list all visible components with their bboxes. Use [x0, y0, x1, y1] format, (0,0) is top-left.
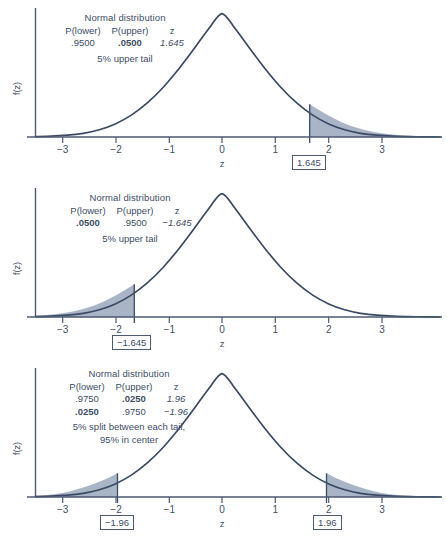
tick-label: 3 — [370, 144, 394, 155]
annotation-note: 5% upper tail — [40, 233, 220, 246]
tick-label: 3 — [370, 324, 394, 335]
header-p-lower: P(lower) — [60, 25, 106, 38]
y-axis-label: f(z) — [12, 262, 22, 275]
header-p-lower: P(lower) — [64, 381, 110, 394]
value-p-lower: .9500 — [60, 37, 106, 50]
annotation-note: 5% upper tail — [40, 53, 210, 66]
value-z-italic: 1.645 — [160, 37, 184, 48]
shaded-tail-upper — [310, 104, 438, 137]
normal-distribution-panel-1: f(z) Normal distribution P(lower)P(upper… — [0, 0, 447, 180]
header-p-lower: P(lower) — [65, 205, 111, 218]
value-z: −1.645 — [159, 217, 195, 230]
annotation-row: .9500.05001.645 — [40, 37, 210, 50]
tick-label: −3 — [51, 504, 75, 515]
annotation-title: Normal distribution — [40, 12, 210, 25]
tick-label: −1 — [157, 324, 181, 335]
annotation-row: .0250.9750−1.96 — [34, 406, 224, 419]
shaded-tail-upper — [327, 473, 438, 497]
normal-distribution-panel-2: f(z) Normal distribution P(lower)P(upper… — [0, 180, 447, 360]
value-z: −1.96 — [158, 406, 194, 419]
tick-label: −2 — [104, 144, 128, 155]
tick-label: 0 — [210, 504, 234, 515]
value-z-italic: −1.96 — [164, 406, 188, 417]
tick-label: −3 — [51, 144, 75, 155]
value-p-upper: .9750 — [110, 406, 158, 419]
value-p-upper-bold: .0250 — [122, 393, 146, 404]
annotation-block-2: Normal distribution P(lower)P(upper)z .0… — [40, 192, 220, 245]
tick-label: −3 — [51, 324, 75, 335]
annotation-row: .0500.9500−1.645 — [40, 217, 220, 230]
header-z: z — [158, 381, 194, 394]
annotation-title: Normal distribution — [34, 368, 224, 381]
value-p-lower: .0250 — [64, 406, 110, 419]
critical-value-box: 1.645 — [292, 155, 326, 170]
critical-value-box: −1.645 — [112, 335, 151, 350]
header-p-upper: P(upper) — [111, 205, 159, 218]
tick-label: 1 — [263, 324, 287, 335]
annotation-header: P(lower)P(upper)z — [40, 25, 210, 38]
value-p-lower-bold: .0500 — [76, 217, 100, 228]
header-z: z — [159, 205, 195, 218]
value-p-lower: .0500 — [65, 217, 111, 230]
header-p-upper: P(upper) — [106, 25, 154, 38]
annotation-header: P(lower)P(upper)z — [34, 381, 224, 394]
value-p-upper: .0250 — [110, 393, 158, 406]
critical-value-box-upper: 1.96 — [313, 515, 342, 530]
tick-label: 0 — [210, 324, 234, 335]
tick-label: 2 — [317, 144, 341, 155]
value-p-lower: .9750 — [64, 393, 110, 406]
x-axis-ticks — [63, 137, 382, 143]
value-p-upper: .9500 — [111, 217, 159, 230]
shaded-tail-lower — [36, 284, 135, 317]
value-p-lower-bold: .0250 — [75, 406, 99, 417]
tick-label: −2 — [104, 504, 128, 515]
x-axis-label: z — [212, 518, 232, 529]
tick-label: −1 — [157, 144, 181, 155]
annotation-title: Normal distribution — [40, 192, 220, 205]
value-z: 1.645 — [154, 37, 190, 50]
value-p-upper: .0500 — [106, 37, 154, 50]
tick-label: 1 — [263, 504, 287, 515]
tick-label: 0 — [210, 144, 234, 155]
tick-label: −2 — [104, 324, 128, 335]
annotation-note-line2: 95% in center — [34, 434, 224, 447]
annotation-header: P(lower)P(upper)z — [40, 205, 220, 218]
value-p-upper-bold: .0500 — [118, 37, 142, 48]
y-axis-label: f(z) — [12, 82, 22, 95]
value-z-italic: 1.96 — [167, 393, 186, 404]
x-axis-label: z — [212, 158, 232, 169]
annotation-row: .9750.02501.96 — [34, 393, 224, 406]
tick-label: 1 — [263, 144, 287, 155]
y-axis-label: f(z) — [12, 442, 22, 455]
value-z: 1.96 — [158, 393, 194, 406]
annotation-block-3: Normal distribution P(lower)P(upper)z .9… — [34, 368, 224, 446]
value-z-italic: −1.645 — [162, 217, 191, 228]
x-axis-ticks — [63, 317, 382, 323]
annotation-note-line1: 5% split between each tail, — [34, 421, 224, 434]
critical-value-box-lower: −1.96 — [100, 515, 134, 530]
tick-label: 2 — [317, 324, 341, 335]
tick-label: 3 — [370, 504, 394, 515]
header-z: z — [154, 25, 190, 38]
normal-distribution-panel-3: f(z) Normal distribution P(lower)P(upper… — [0, 360, 447, 539]
tick-label: 2 — [317, 504, 341, 515]
x-axis-ticks — [63, 497, 382, 503]
header-p-upper: P(upper) — [110, 381, 158, 394]
tick-label: −1 — [157, 504, 181, 515]
x-axis-label: z — [212, 338, 232, 349]
annotation-block-1: Normal distribution P(lower)P(upper)z .9… — [40, 12, 210, 65]
